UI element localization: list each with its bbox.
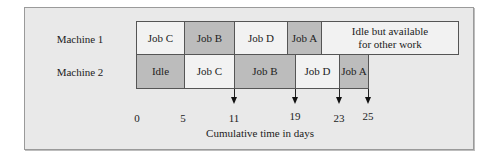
arrow-down-icon — [231, 97, 237, 104]
arrow-down-icon — [365, 97, 371, 104]
tick-19: 19 — [280, 110, 310, 122]
tick-11: 11 — [219, 112, 249, 124]
m2-job-a: Job A — [339, 54, 369, 89]
m1-job-a: Job A — [287, 21, 322, 55]
m1-idle-available: Idle but available for other work — [321, 21, 459, 55]
machine-1-label: Machine 1 — [30, 32, 130, 46]
m2-job-c: Job C — [184, 54, 235, 89]
arrow-25-line — [368, 89, 369, 97]
arrow-11-line — [234, 89, 235, 97]
axis-title: Cumulative time in days — [200, 127, 320, 140]
arrow-down-icon — [292, 97, 298, 104]
arrow-19-line — [295, 89, 296, 97]
m1-job-d: Job D — [234, 21, 288, 55]
tick-5: 5 — [168, 112, 198, 124]
arrow-23-line — [339, 89, 340, 97]
m2-job-b: Job B — [234, 54, 296, 89]
m1-job-b: Job B — [184, 21, 235, 55]
tick-25: 25 — [353, 110, 383, 122]
tick-0: 0 — [122, 112, 152, 124]
m2-idle: Idle — [136, 54, 185, 89]
m1-job-c: Job C — [136, 21, 185, 55]
arrow-down-icon — [336, 97, 342, 104]
m2-job-d: Job D — [295, 54, 340, 89]
tick-23: 23 — [324, 112, 354, 124]
machine-2-label: Machine 2 — [30, 65, 130, 79]
